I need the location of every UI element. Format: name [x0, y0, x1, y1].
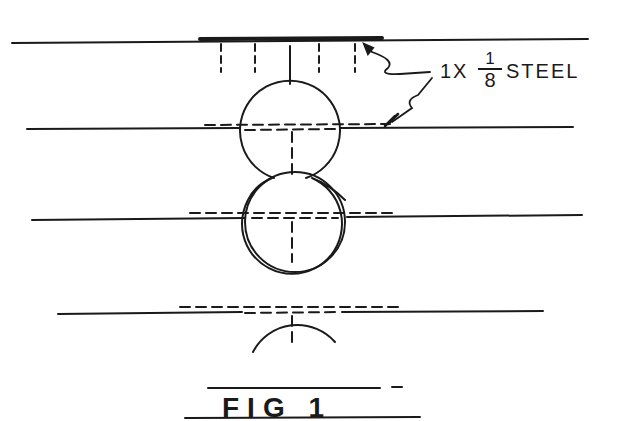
rail-line-2-left: [32, 218, 245, 220]
fraction-numerator: 1: [478, 50, 502, 68]
figure-caption: FIG 1: [222, 392, 332, 421]
leader-line-upper: [366, 46, 430, 74]
annotation-material: STEEL: [506, 60, 579, 83]
steel-strap: [200, 38, 382, 39]
rail-line-1-left: [27, 128, 240, 129]
fraction-denominator: 8: [478, 68, 502, 90]
hidden-line-1b: [245, 129, 335, 130]
rail-line-1-right: [340, 127, 573, 128]
rail-line-3-left: [58, 312, 242, 314]
bolt-hidden-lines: [221, 44, 355, 72]
rail-line-2-right: [347, 215, 582, 217]
circle-2-body: [245, 172, 345, 272]
hidden-line-3b: [245, 312, 340, 313]
rail-line-3-right: [342, 311, 543, 312]
circle-3-arc: [253, 325, 335, 352]
hidden-line-1a: [205, 124, 390, 125]
annotation-prefix: 1X: [440, 60, 468, 83]
annotation-fraction: 1 8: [478, 50, 502, 90]
